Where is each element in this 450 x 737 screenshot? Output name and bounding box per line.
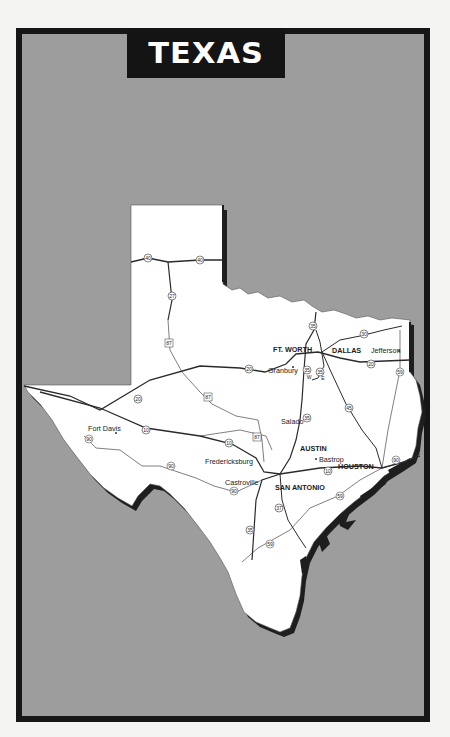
svg-text:35: 35 — [304, 415, 310, 421]
shield-us87-north: 87 — [165, 339, 173, 347]
svg-text:90: 90 — [393, 457, 399, 463]
svg-text:59: 59 — [397, 369, 403, 375]
shield-i27: 27 — [168, 292, 176, 300]
shield-us90-west: 90 — [85, 435, 93, 443]
svg-text:20: 20 — [368, 361, 374, 367]
shield-i10-east: 10 — [324, 467, 332, 475]
svg-text:10: 10 — [143, 427, 149, 433]
label-austin: AUSTIN — [300, 444, 327, 453]
svg-text:87: 87 — [254, 434, 260, 440]
shield-us59-mid: 59 — [336, 492, 344, 500]
svg-text:27: 27 — [169, 293, 175, 299]
svg-text:30: 30 — [361, 331, 367, 337]
label-castroville: Castroville — [225, 478, 259, 487]
shield-i40-west: 40 — [144, 254, 152, 262]
svg-text:45: 45 — [346, 405, 352, 411]
shield-i20-west: 20 — [134, 395, 142, 403]
shield-i30: 30 — [360, 330, 368, 338]
label-granbury: Granbury — [268, 366, 298, 375]
svg-text:20: 20 — [246, 366, 252, 372]
svg-text:90: 90 — [86, 436, 92, 442]
texas-map: 40 40 27 87 87 87 20 20 20 10 10 10 35 3… — [0, 0, 450, 737]
shield-us87-south: 87 — [253, 433, 261, 441]
shield-i45: 45 — [345, 404, 353, 412]
svg-text:40: 40 — [145, 255, 151, 261]
label-san-antonio: SAN ANTONIO — [275, 483, 325, 492]
shield-us90-mid: 90 — [167, 462, 175, 470]
svg-text:20: 20 — [135, 396, 141, 402]
shield-i20-mid: 20 — [245, 365, 253, 373]
shield-i35-south: 35 — [246, 526, 254, 534]
svg-text:10: 10 — [325, 468, 331, 474]
shield-us87-mid: 87 — [204, 393, 212, 401]
shield-us59-north: 59 — [396, 368, 404, 376]
label-fredericksburg: Fredericksburg — [205, 457, 253, 466]
svg-text:90: 90 — [231, 488, 237, 494]
shield-i35-north: 35 — [309, 322, 317, 330]
svg-text:90: 90 — [168, 463, 174, 469]
shield-us90-castroville: 90 — [230, 487, 238, 495]
label-fort-davis: Fort Davis — [88, 424, 121, 433]
shield-us90-east: 90 — [392, 456, 400, 464]
shield-i40-east: 40 — [196, 256, 204, 264]
label-salado: Salado — [281, 417, 303, 426]
svg-text:35: 35 — [247, 527, 253, 533]
shield-i10-west: 10 — [142, 426, 150, 434]
shield-us59-south: 59 — [266, 540, 274, 548]
svg-text:40: 40 — [197, 257, 203, 263]
title-banner: TEXAS — [127, 28, 285, 78]
shield-i35w-suffix: W — [307, 374, 312, 380]
svg-text:87: 87 — [166, 340, 172, 346]
svg-text:87: 87 — [205, 394, 211, 400]
shield-i37: 37 — [275, 504, 283, 512]
svg-text:35: 35 — [304, 367, 310, 373]
page-title: TEXAS — [148, 36, 264, 70]
label-jefferson: Jefferson — [371, 346, 400, 355]
svg-text:35: 35 — [310, 323, 316, 329]
svg-text:37: 37 — [276, 505, 282, 511]
shield-i35w: 35 — [303, 366, 311, 374]
shield-i20-east: 20 — [367, 360, 375, 368]
shield-i35-central: 35 — [303, 414, 311, 422]
svg-text:10: 10 — [226, 440, 232, 446]
svg-text:35: 35 — [317, 369, 323, 375]
label-dallas: DALLAS — [332, 346, 361, 355]
svg-text:59: 59 — [267, 541, 273, 547]
shield-i10-mid: 10 — [225, 439, 233, 447]
svg-text:59: 59 — [337, 493, 343, 499]
label-ft-worth: FT. WORTH — [273, 345, 312, 354]
label-houston: HOUSTON — [338, 462, 374, 471]
